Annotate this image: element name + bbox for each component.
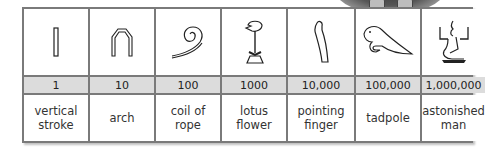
pointing-finger-icon	[288, 9, 354, 75]
value-cell: 1	[24, 77, 88, 93]
glyph-name-cell: coil of rope	[156, 95, 220, 141]
value-cell: 100	[156, 77, 220, 93]
tadpole-icon	[356, 9, 420, 75]
value-cell: 1000	[222, 77, 286, 93]
glyph-name-cell: vertical stroke	[24, 95, 88, 141]
astonished-man-icon	[422, 9, 485, 75]
value-cell: 100,000	[356, 77, 420, 93]
hieroglyph-numerals-table: 1 10 100 1000 10,000 100,000 1,000,000 v…	[22, 7, 473, 143]
lotus-flower-icon	[222, 9, 286, 75]
arch-icon	[90, 9, 154, 75]
value-cell: 1,000,000	[422, 77, 485, 93]
vertical-stroke-icon	[24, 9, 88, 75]
glyph-name-cell: tadpole	[356, 95, 420, 141]
glyph-name-cell: astonished man	[422, 95, 485, 141]
value-cell: 10	[90, 77, 154, 93]
glyph-name-cell: arch	[90, 95, 154, 141]
glyph-name-cell: pointing finger	[288, 95, 354, 141]
glyph-name-cell: lotus flower	[222, 95, 286, 141]
value-cell: 10,000	[288, 77, 354, 93]
coil-of-rope-icon	[156, 9, 220, 75]
